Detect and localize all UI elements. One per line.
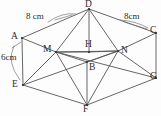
edge-N-F: [87, 51, 118, 105]
edge-E-M: [23, 52, 56, 85]
edge-A-E: [22, 38, 23, 85]
vertex-point-H: [88, 51, 90, 53]
vertex-label-C: C: [150, 26, 156, 36]
dimension-label-dim-left: 8 cm: [26, 12, 44, 21]
vertex-point-E: [22, 84, 24, 86]
edge-F-G: [87, 78, 156, 105]
vertex-label-D: D: [85, 0, 92, 10]
dim-side-leader: [12, 42, 21, 48]
dimension-label-dim-right: 8cm: [124, 12, 140, 21]
vertex-label-E: E: [12, 80, 18, 90]
edge-D-C: [89, 9, 156, 33]
vertex-label-B: B: [89, 63, 95, 73]
edge-D-N: [89, 9, 118, 51]
edge-M-N: [56, 51, 118, 52]
edges-group: [22, 9, 156, 105]
vertex-point-A: [21, 37, 23, 39]
vertex-label-H: H: [85, 40, 92, 50]
vertex-label-N: N: [121, 46, 128, 56]
vertex-label-G: G: [150, 72, 157, 82]
vertex-label-A: A: [11, 32, 18, 42]
vertex-point-N: [117, 50, 119, 52]
vertex-point-M: [55, 51, 57, 53]
vertex-point-B: [86, 61, 88, 63]
vertex-label-F: F: [83, 105, 88, 115]
vertex-label-M: M: [43, 45, 51, 55]
geometry-diagram: ADCEGFMHNB 8 cm8cm6cm: [0, 0, 161, 116]
edge-M-G: [56, 52, 156, 78]
dimension-label-dim-side: 6cm: [1, 53, 17, 62]
